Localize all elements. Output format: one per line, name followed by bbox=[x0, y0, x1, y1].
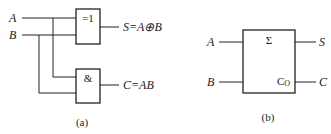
caption-a: (a) bbox=[76, 116, 89, 129]
carry-output-label: C=AB bbox=[123, 78, 154, 92]
figure-b-block-symbol: A B Σ CO S C (b) bbox=[206, 30, 328, 124]
block-output-s-label: S bbox=[319, 35, 325, 49]
block-input-a-label: A bbox=[206, 35, 215, 49]
wire-a-to-and bbox=[53, 18, 76, 77]
input-a-label: A bbox=[8, 11, 17, 25]
and-gate-symbol: & bbox=[84, 72, 93, 84]
block-input-b-label: B bbox=[207, 75, 215, 89]
sum-symbol: Σ bbox=[266, 34, 272, 46]
sum-output-label: S=A⊕B bbox=[123, 20, 162, 34]
block-output-c-label: C bbox=[319, 75, 328, 89]
xor-gate-symbol: =1 bbox=[82, 12, 94, 24]
input-b-label: B bbox=[9, 28, 17, 42]
figure-a-logic-circuit: A B =1 S=A⊕B & C=AB (a) bbox=[8, 9, 162, 129]
wire-b-to-and bbox=[39, 35, 76, 93]
caption-b: (b) bbox=[262, 111, 275, 124]
half-adder-diagram: A B =1 S=A⊕B & C=AB (a) A B Σ CO S C (b) bbox=[0, 0, 331, 134]
